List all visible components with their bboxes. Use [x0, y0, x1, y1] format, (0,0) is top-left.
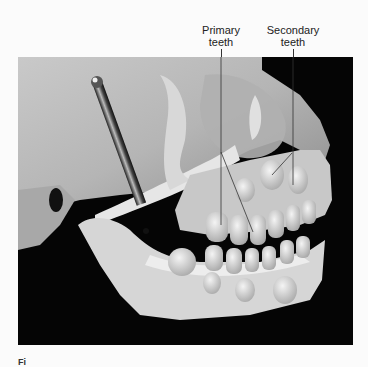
figure-caption-fragment: Fi	[18, 357, 26, 367]
leader-line-primary	[221, 49, 222, 57]
label-secondary-teeth: Secondary teeth	[262, 24, 324, 48]
label-secondary-line1: Secondary	[262, 24, 324, 36]
label-secondary-line2: teeth	[262, 36, 324, 48]
leader-line-secondary	[293, 49, 294, 57]
label-primary-line2: teeth	[198, 36, 244, 48]
label-primary-teeth: Primary teeth	[198, 24, 244, 48]
label-primary-line1: Primary	[198, 24, 244, 36]
skull-photo	[18, 57, 353, 345]
